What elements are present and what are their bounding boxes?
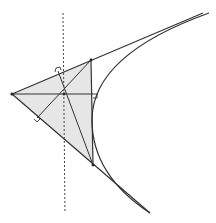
parabola [92,13,209,213]
parabola-triangle-diagram [0,0,216,223]
top-tangent-line [12,13,203,94]
vertex-bottom [92,164,95,167]
vertex-top [90,59,93,62]
triangle [12,60,93,165]
vertex-left [10,92,13,95]
orthocenter [63,93,66,96]
